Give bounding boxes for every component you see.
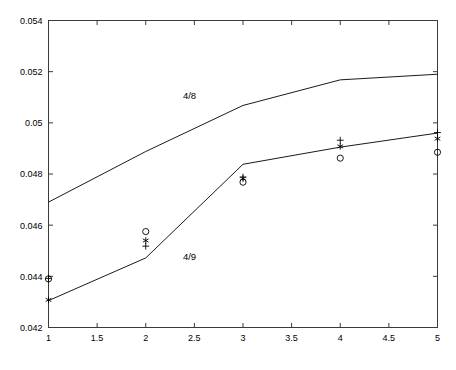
annotation-4-8: 4/8	[183, 90, 196, 101]
annotation-4-9: 4/9	[183, 251, 196, 262]
line-chart-svg: 11.522.533.544.55 0.0420.0440.0460.0480.…	[0, 0, 456, 370]
y-tick-label: 0.05	[25, 118, 43, 128]
x-tick-label: 4	[338, 333, 343, 343]
x-tick-label: 3.5	[285, 333, 298, 343]
x-tick-label: 3	[240, 333, 245, 343]
y-tick-label: 0.046	[20, 221, 43, 231]
x-tick-label: 1	[46, 333, 51, 343]
x-tick-label: 1.5	[91, 333, 104, 343]
y-tick-label: 0.044	[20, 272, 43, 282]
x-tick-label: 4.5	[383, 333, 396, 343]
y-tick-label: 0.052	[20, 67, 43, 77]
x-tick-label: 2	[143, 333, 148, 343]
y-tick-label: 0.054	[20, 16, 43, 26]
y-tick-label: 0.042	[20, 323, 43, 333]
chart-background	[0, 0, 456, 370]
chart-figure: 11.522.533.544.55 0.0420.0440.0460.0480.…	[0, 0, 456, 370]
x-tick-label: 2.5	[188, 333, 201, 343]
x-tick-label: 5	[435, 333, 440, 343]
y-tick-label: 0.048	[20, 169, 43, 179]
